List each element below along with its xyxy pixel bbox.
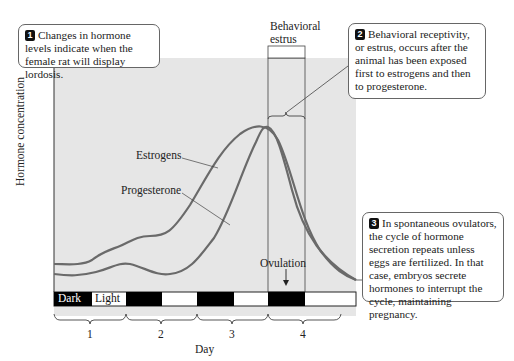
y-axis-label: Hormone concentration <box>14 77 26 186</box>
dark-label: Dark <box>58 292 81 305</box>
plot-area <box>54 58 356 316</box>
day-tick-3: 3 <box>229 328 235 340</box>
callout-3: 3In spontaneous ovulators, the cycle of … <box>362 212 504 302</box>
callout-1-number-badge: 1 <box>25 30 35 41</box>
x-axis-label: Day <box>195 343 214 355</box>
callout-2-number-badge: 2 <box>355 29 365 40</box>
behavioral-estrus-label: Behavioral estrus <box>270 20 330 46</box>
ovulation-label: Ovulation <box>260 257 306 269</box>
callout-2-text: Behavioral receptivity, or estrus, occur… <box>355 28 471 92</box>
callout-3-number-badge: 3 <box>369 218 379 229</box>
progesterone-label: Progesterone <box>121 184 181 196</box>
day-tick-1: 1 <box>87 328 93 340</box>
callout-1: 1Changes in hormone levels indicate when… <box>18 24 160 68</box>
estrus-window-top <box>268 46 305 58</box>
light-label: Light <box>95 292 120 305</box>
day-tick-4: 4 <box>300 328 306 340</box>
dark-cell-3 <box>197 292 234 306</box>
dark-cell-2 <box>126 292 162 306</box>
dark-cell-4 <box>268 292 305 306</box>
estrogens-label: Estrogens <box>136 149 181 161</box>
callout-2: 2Behavioral receptivity, or estrus, occu… <box>348 23 486 99</box>
day-tick-2: 2 <box>158 328 164 340</box>
